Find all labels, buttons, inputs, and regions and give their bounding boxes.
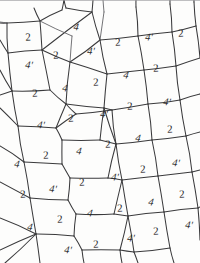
tile-label-2: 2 <box>127 99 133 111</box>
tile-label-2: 2 <box>79 175 85 187</box>
tile-label-2: 2 <box>153 224 159 236</box>
tile-label-2: 2 <box>25 30 31 42</box>
tiling-figure: 244'24'24'2242424'24'24'2424244'24'24'22… <box>0 0 200 263</box>
tile-label-2: 2 <box>105 137 111 149</box>
tile-label-2: 2 <box>93 237 99 249</box>
tile-label-2: 2 <box>115 35 121 47</box>
tile-edge <box>76 214 114 215</box>
tile-label-2: 2 <box>53 48 59 60</box>
tile-label-2: 2 <box>68 111 74 123</box>
tile-label-2: 2 <box>32 86 38 98</box>
tile-label-2: 2 <box>43 148 49 160</box>
tile-label-2: 2 <box>117 201 123 213</box>
tile-label-2: 2 <box>153 61 159 73</box>
tile-label-2: 2 <box>20 187 26 199</box>
tile-label-2: 2 <box>178 26 184 38</box>
tile-label-2: 2 <box>179 187 185 199</box>
tiling-diagram-svg: 244'24'24'2242424'24'24'2424244'24'24'22… <box>0 0 200 263</box>
tile-label-2: 2 <box>93 75 99 87</box>
tile-label-2: 2 <box>167 122 173 134</box>
tile-label-2: 2 <box>140 162 146 174</box>
tile-label-2: 2 <box>57 212 63 224</box>
